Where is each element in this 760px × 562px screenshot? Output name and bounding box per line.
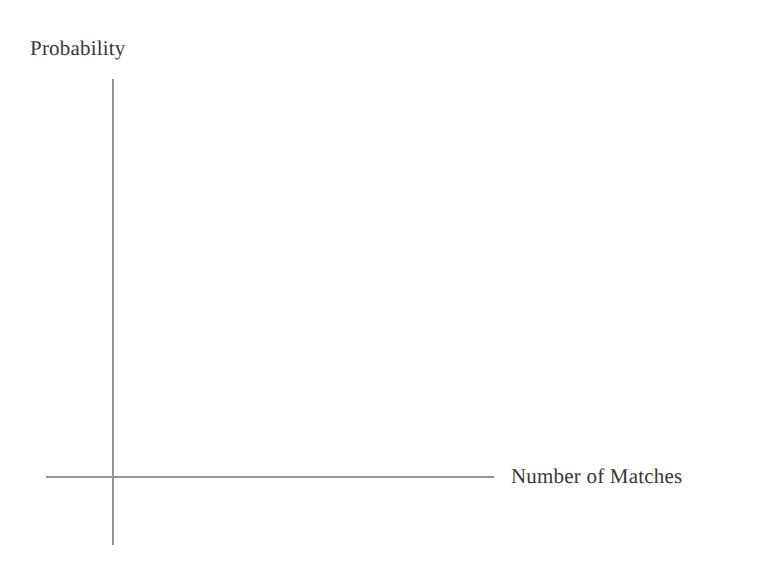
y-axis-label: Probability [30, 38, 126, 59]
plot-area [114, 79, 494, 477]
chart-figure: Probability Number of Matches [0, 0, 760, 562]
x-axis-line [46, 476, 494, 478]
x-axis-label: Number of Matches [511, 466, 682, 487]
